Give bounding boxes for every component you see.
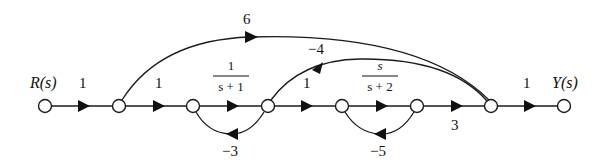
node-3	[187, 100, 200, 113]
node-7	[485, 100, 498, 113]
arrow-n1-n2	[78, 100, 90, 112]
input-label: R(s)	[29, 74, 57, 92]
arrow-n7-n8	[524, 100, 536, 112]
gain-n7-n8: 1	[523, 75, 531, 91]
gain-n3-n4-numerator: 1	[228, 58, 235, 73]
output-label: Y(s)	[552, 74, 578, 92]
node-4	[262, 100, 275, 113]
arrow-n4-n5	[301, 100, 313, 112]
gain-n3-n4-denominator: s + 1	[218, 79, 243, 94]
gain-n4-n5: 1	[303, 75, 311, 91]
arrow-n4-n7	[312, 62, 323, 74]
gain-feedback-n6-n5: −5	[370, 143, 386, 159]
arrow-n2-n7	[245, 31, 258, 43]
gain-n6-n7: 3	[451, 117, 459, 133]
arrow-n5-n6	[376, 100, 388, 112]
arrow-n3-n4	[227, 100, 239, 112]
arrow-n2-n3	[153, 100, 165, 112]
edge-n6-n5-feedback	[345, 112, 414, 134]
gain-feedforward-n4-n7: −4	[308, 41, 324, 57]
arrow-n4-n3	[226, 128, 238, 140]
gain-n5-n6-denominator: s + 2	[367, 79, 392, 94]
gain-n1-n2: 1	[79, 75, 87, 91]
node-5	[336, 100, 349, 113]
gain-n5-n6-numerator: s	[377, 58, 382, 73]
node-output	[558, 100, 571, 113]
arrow-n6-n5	[374, 128, 386, 140]
gain-feedforward-n2-n7: 6	[243, 11, 251, 27]
edge-n4-n3-feedback	[196, 112, 264, 134]
node-6	[411, 100, 424, 113]
gain-feedback-n4-n3: −3	[222, 143, 238, 159]
arrow-n6-n7	[451, 100, 463, 112]
node-2	[113, 100, 126, 113]
node-input	[39, 100, 52, 113]
gain-n2-n3: 1	[155, 75, 163, 91]
signal-flow-graph: R(s) Y(s) 1 1 1 s + 1 1 s s + 2 3 1 −3 −…	[0, 0, 616, 164]
